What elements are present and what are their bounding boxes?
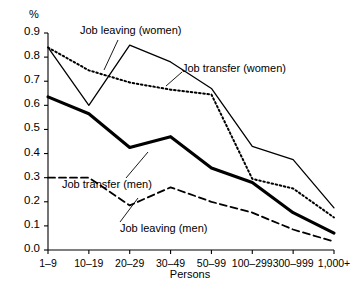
series-line bbox=[48, 47, 334, 217]
series-lines bbox=[48, 45, 334, 242]
annotation-leader-lines bbox=[104, 40, 182, 222]
series-line bbox=[48, 45, 334, 208]
plot-area bbox=[0, 0, 361, 291]
chart-container: % 0.00.10.20.30.40.50.60.70.80.9 1–910–1… bbox=[0, 0, 361, 291]
annotation-leader-line bbox=[126, 152, 148, 178]
annotation-leader-line bbox=[166, 72, 182, 86]
series-line bbox=[48, 97, 334, 233]
axis-lines bbox=[44, 33, 334, 254]
